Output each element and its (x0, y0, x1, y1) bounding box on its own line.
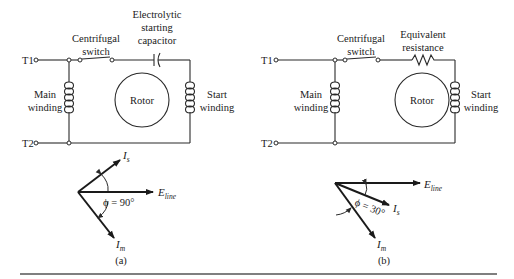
centrifugal-switch-blade (82, 57, 110, 59)
main-winding-label-line2: winding (28, 102, 63, 113)
junction-node (67, 141, 71, 145)
terminal-t2 (274, 141, 278, 145)
start-winding-label-line1: Start (471, 89, 491, 100)
e-line-label: Eline (423, 178, 443, 193)
angle-arc-upper (101, 174, 108, 191)
phase-angle-label: ϕ = 90° (103, 197, 134, 208)
switch-contact (78, 58, 82, 62)
resistor-zigzag (412, 55, 455, 65)
angle-arc-upper (365, 184, 367, 195)
start-current-label: Is (392, 202, 400, 217)
junction-node (67, 58, 71, 62)
centrifugal-switch-blade (347, 57, 376, 59)
rotor-label: Rotor (410, 95, 434, 106)
switch-contact (343, 58, 347, 62)
terminal-t2-label: T2 (261, 138, 273, 149)
main-winding-label-line1: Main (300, 89, 323, 100)
angle-arc-lower (336, 208, 351, 215)
caption-b: (b) (378, 255, 391, 267)
phasor-diagram-a: Is Eline ϕ = 90° Im (a) (78, 149, 177, 267)
circuit-a: T1 T2 Rotor Centrifugal (22, 9, 235, 149)
resistance-label-line1: Equivalent (400, 29, 446, 40)
centrifugal-switch-label-line2: switch (82, 46, 110, 57)
start-winding-label-line2: winding (464, 102, 499, 113)
junction-node (333, 58, 337, 62)
terminal-t1 (274, 58, 278, 62)
terminal-t1 (34, 58, 38, 62)
figure: T1 T2 Rotor Centrifugal (0, 0, 514, 279)
switch-contact (376, 58, 380, 62)
capacitor-label-line1: Electrolytic (133, 9, 182, 20)
start-winding-label-line1: Start (207, 89, 227, 100)
main-winding-label-line1: Main (34, 89, 57, 100)
rotor-label: Rotor (130, 95, 154, 106)
main-current-label: Im (376, 238, 387, 253)
e-line-label: Eline (157, 186, 177, 201)
centrifugal-switch-label-line1: Centrifugal (72, 33, 120, 44)
start-current-phasor (78, 160, 120, 192)
terminal-t1-label: T1 (261, 55, 273, 66)
main-current-label: Im (115, 238, 126, 253)
start-winding-coil (186, 82, 195, 115)
start-current-label: Is (122, 149, 130, 164)
start-winding-coil (451, 82, 460, 115)
terminal-t2 (34, 141, 38, 145)
capacitor-label-line2: starting (141, 22, 173, 33)
switch-contact (110, 58, 114, 62)
centrifugal-switch-label-line1: Centrifugal (337, 33, 385, 44)
start-winding-label-line2: winding (200, 102, 235, 113)
junction-node (333, 141, 337, 145)
main-winding-label-line2: winding (294, 102, 329, 113)
terminal-t1-label: T1 (22, 55, 34, 66)
phasor-diagram-b: Eline ϕ = 30° Is Im (b) (335, 178, 443, 267)
resistance-label-line2: resistance (402, 42, 444, 53)
centrifugal-switch-label-line2: switch (347, 46, 375, 57)
terminal-t2-label: T2 (22, 138, 34, 149)
circuit-b: T1 T2 Rotor Centrifugal switch Equivalen… (261, 29, 499, 149)
capacitor-label-line3: capacitor (138, 35, 177, 46)
caption-a: (a) (115, 255, 127, 267)
main-winding-coil (65, 82, 74, 115)
main-winding-coil (331, 82, 340, 115)
